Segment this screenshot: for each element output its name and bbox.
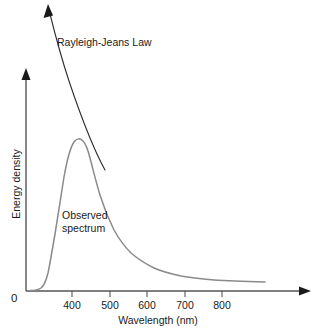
x-axis-arrowhead [299, 287, 311, 296]
y-axis-arrowhead [22, 68, 31, 80]
observed-spectrum-label-line1: Observed [62, 209, 108, 222]
observed-spectrum-label-line2: spectrum [62, 222, 108, 235]
observed-spectrum-label: Observed spectrum [62, 209, 108, 235]
rayleigh-jeans-arrowhead [44, 4, 54, 18]
x-tick-label-800: 800 [202, 299, 242, 311]
blackbody-radiation-chart: 0 400 500 600 700 800 Wavelength (nm) En… [0, 0, 316, 333]
x-tick-label-500: 500 [90, 299, 130, 311]
axis-zero-label: 0 [11, 292, 17, 305]
y-axis-title: Energy density [10, 124, 22, 244]
x-tick-label-600: 600 [127, 299, 167, 311]
x-axis-title: Wavelength (nm) [0, 314, 316, 326]
x-tick-label-400: 400 [52, 299, 92, 311]
rayleigh-jeans-label: Rayleigh-Jeans Law [57, 36, 152, 49]
chart-canvas [0, 0, 316, 333]
x-axis-ticks [72, 291, 222, 297]
x-tick-label-700: 700 [165, 299, 205, 311]
